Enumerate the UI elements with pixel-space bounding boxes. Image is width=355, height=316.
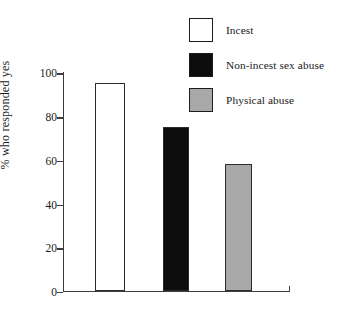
legend-swatch-incest: [189, 18, 213, 42]
y-tick-mark: [57, 205, 63, 206]
legend-label-non-incest-sex-abuse: Non-incest sex abuse: [226, 59, 324, 71]
y-axis-line: [63, 72, 64, 292]
y-tick-mark: [57, 161, 63, 162]
bar-incest: [95, 83, 125, 291]
x-axis-end-tick: [289, 286, 290, 292]
y-tick-mark: [57, 292, 63, 293]
legend-item-incest: Incest: [189, 17, 355, 42]
plot-area: 100 80 60 40 20 0: [63, 72, 290, 292]
y-tick-label: 60: [46, 155, 58, 167]
legend-label-incest: Incest: [226, 24, 254, 36]
y-axis-title: % who responded yes: [0, 61, 13, 170]
y-tick-label: 40: [46, 199, 58, 211]
y-tick-label: 0: [51, 286, 57, 298]
y-tick-mark: [57, 248, 63, 249]
bar-non-incest-sex-abuse: [163, 127, 189, 291]
x-axis-line: [63, 291, 290, 292]
bar-chart-figure: Incest Non-incest sex abuse Physical abu…: [0, 0, 355, 316]
y-tick-mark: [57, 117, 63, 118]
y-tick-mark: [57, 73, 63, 74]
y-tick-label: 80: [46, 111, 58, 123]
bar-physical-abuse: [225, 164, 252, 291]
y-tick-label: 100: [40, 67, 57, 79]
y-tick-label: 20: [46, 242, 58, 254]
